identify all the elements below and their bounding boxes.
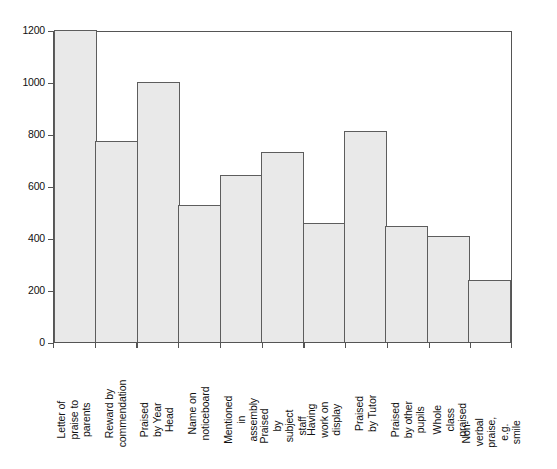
x-axis-label: Praised by Year Head	[136, 349, 178, 469]
y-axis: 020040060080010001200	[0, 31, 53, 343]
x-tick-mark	[220, 343, 221, 348]
x-axis-label: Praised by subject staff	[262, 349, 304, 469]
y-tick-label: 1000	[22, 76, 45, 89]
x-tick-mark	[429, 343, 430, 348]
x-axis-label-text: Reward by commendation	[103, 380, 128, 448]
x-tick-mark	[511, 343, 512, 348]
bar	[385, 226, 428, 342]
x-tick-mark	[303, 343, 304, 348]
bars-layer	[54, 32, 511, 342]
bar	[344, 131, 387, 342]
bar	[261, 152, 304, 342]
x-axis-label-text: Praised by Year Head	[139, 399, 177, 441]
x-axis-label-text: Having work on display	[305, 399, 343, 441]
x-axis-label-text: Praised by other pupils	[389, 399, 427, 441]
y-tick-label: 600	[28, 180, 45, 193]
x-axis-labels: Letter of praise to parentsReward by com…	[53, 349, 512, 469]
bar	[54, 30, 97, 342]
x-tick-mark	[53, 343, 54, 348]
y-tick-label: 0	[39, 336, 45, 349]
x-axis-label-text: Praised by Tutor	[353, 393, 378, 435]
x-axis-label-text: Letter of praise to parents	[55, 399, 93, 441]
x-axis-label: Letter of praise to parents	[53, 349, 95, 469]
x-tick-mark	[95, 343, 96, 348]
x-axis-label: Having work on display	[303, 349, 345, 469]
x-axis-label: Mentioned in assembly	[220, 349, 262, 469]
x-axis-label: Name on noticeboard	[178, 349, 220, 469]
x-tick-mark	[387, 343, 388, 348]
x-axis-label: Praised by Tutor	[345, 349, 387, 469]
x-tick-mark	[262, 343, 263, 348]
bar	[95, 141, 138, 342]
x-tick-mark	[178, 343, 179, 348]
plot-area	[53, 31, 512, 343]
x-axis-label-text: Praised by subject staff	[257, 405, 307, 447]
bar	[137, 82, 180, 342]
x-axis-label-text: Non-verbal praise, e.g. smile	[460, 411, 523, 453]
x-axis-label: Non-verbal praise, e.g. smile	[470, 349, 512, 469]
bar-chart-figure: 020040060080010001200 Letter of praise t…	[0, 0, 557, 469]
bar	[303, 223, 346, 342]
x-axis-label: Praised by other pupils	[387, 349, 429, 469]
y-tick-label: 400	[28, 232, 45, 245]
x-tick-mark	[345, 343, 346, 348]
x-tick-mark	[470, 343, 471, 348]
y-tick-label: 800	[28, 128, 45, 141]
x-axis-label-text: Mentioned in assembly	[222, 396, 260, 444]
bar	[178, 205, 221, 342]
x-axis-label: Reward by commendation	[95, 349, 137, 469]
x-axis-label-text: Name on noticeboard	[187, 387, 212, 441]
bar	[427, 236, 470, 342]
bar	[468, 280, 511, 342]
y-tick-label: 1200	[22, 24, 45, 37]
bar	[220, 175, 263, 342]
y-tick-label: 200	[28, 284, 45, 297]
x-tick-mark	[136, 343, 137, 348]
